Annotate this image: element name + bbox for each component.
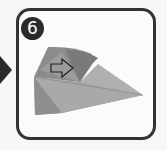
step-number-badge: 6 [21,17,44,40]
